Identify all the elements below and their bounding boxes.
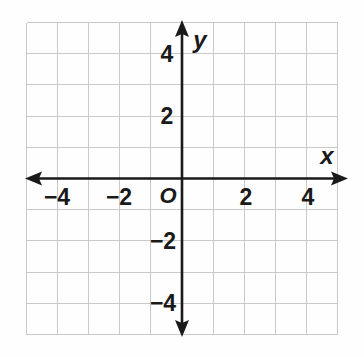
axis-lines — [32, 28, 340, 329]
y-tick-label-4: 4 — [161, 43, 174, 66]
coordinate-plane-figure: x y O −4 −2 2 4 4 2 −2 −4 — [0, 0, 364, 357]
origin-label: O — [159, 185, 176, 207]
y-tick-label--2: −2 — [150, 230, 176, 253]
x-tick-label-2: 2 — [240, 186, 253, 209]
y-axis-name: y — [193, 28, 206, 52]
y-tick-label--4: −4 — [150, 292, 176, 315]
x-tick-label--2: −2 — [106, 186, 132, 209]
x-axis-name: x — [320, 144, 333, 168]
x-tick-label--4: −4 — [44, 186, 70, 209]
x-tick-label-4: 4 — [302, 186, 315, 209]
coordinate-grid-svg — [0, 0, 364, 357]
y-tick-label-2: 2 — [161, 105, 174, 128]
